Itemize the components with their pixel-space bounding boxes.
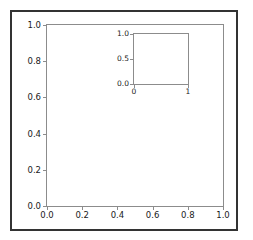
y-tick-label: 0.0 [27, 202, 41, 211]
y-tick-label: 0.6 [27, 93, 41, 102]
x-tick-label: 1.0 [216, 211, 230, 220]
y-tick-label: 0.5 [117, 55, 129, 63]
inset-axes[interactable]: 0.00.51.001 [133, 33, 189, 85]
y-tick-label: 0.0 [117, 80, 129, 88]
y-tick-mark [43, 97, 47, 98]
y-tick-label: 1.0 [117, 30, 129, 38]
y-tick-mark [43, 25, 47, 26]
y-tick-label: 1.0 [27, 21, 41, 30]
x-tick-label: 0.2 [75, 211, 89, 220]
x-tick-label: 0.4 [111, 211, 125, 220]
y-tick-mark [43, 170, 47, 171]
figure-canvas: 0.00.20.40.60.81.00.00.20.40.60.81.0 0.0… [10, 10, 238, 231]
inset-plot-area [134, 34, 188, 84]
x-tick-label: 1 [186, 88, 191, 96]
x-tick-label: 0.6 [146, 211, 160, 220]
y-tick-mark [43, 134, 47, 135]
y-tick-label: 0.8 [27, 57, 41, 66]
x-tick-label: 0 [132, 88, 137, 96]
x-tick-label: 0.0 [40, 211, 54, 220]
y-tick-mark [130, 34, 134, 35]
y-tick-mark [130, 59, 134, 60]
y-tick-label: 0.4 [27, 129, 41, 138]
y-tick-mark [43, 61, 47, 62]
y-tick-label: 0.2 [27, 166, 41, 175]
x-tick-label: 0.8 [181, 211, 195, 220]
